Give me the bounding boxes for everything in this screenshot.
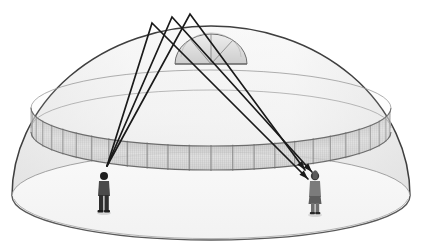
listener-leg-right [316, 203, 320, 213]
wall-panel-mesh [189, 146, 211, 170]
source-leg-left [99, 195, 103, 211]
listener-skirt [309, 196, 322, 204]
source-foot-right [104, 210, 110, 212]
wall-panel-mesh [211, 146, 233, 170]
wall-panel-mesh [92, 136, 109, 163]
source-torso [98, 181, 110, 196]
wall-panel-mesh [52, 126, 63, 154]
wall-panel-mesh [254, 144, 275, 169]
wall-panel-mesh [295, 139, 314, 165]
listener-foot-right [315, 212, 320, 214]
wall-panel-mesh [346, 130, 359, 158]
wall-panel-mesh [127, 142, 147, 168]
wall-panel-mesh [313, 136, 330, 163]
wall-panel-mesh [76, 133, 91, 160]
wall-panel-mesh [359, 126, 370, 154]
wall-panel-mesh [233, 145, 254, 170]
listener-torso [309, 181, 321, 197]
listener-foot-left [310, 212, 315, 214]
wall-panel-mesh [330, 133, 345, 160]
listener-hair [313, 170, 318, 179]
wall-panel-mesh [63, 130, 76, 158]
source-leg-right [105, 195, 109, 211]
source-head [100, 172, 108, 180]
diagram-canvas: Sound ray reflections inside a domed enc… [0, 0, 422, 248]
dome-acoustics-diagram [0, 0, 422, 248]
listener-leg-left [311, 203, 315, 213]
wall-panel-mesh [168, 145, 189, 170]
source-foot-left [98, 210, 104, 212]
wall-panel-mesh [147, 144, 168, 169]
